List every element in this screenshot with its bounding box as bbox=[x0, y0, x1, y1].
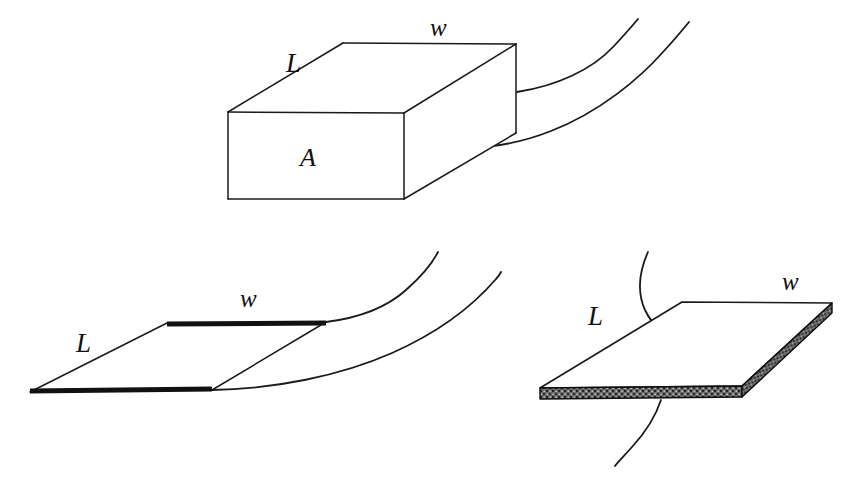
thick-plate-front-edge bbox=[540, 386, 742, 399]
thick-width-label: w bbox=[782, 268, 799, 295]
flat-plate-surface bbox=[30, 322, 326, 392]
flat-edge-front bbox=[30, 389, 212, 391]
panel-rectangular-block: L w A bbox=[228, 14, 689, 199]
thick-length-label: L bbox=[587, 301, 603, 331]
block-edge-top-back bbox=[343, 43, 516, 44]
block-front-face bbox=[228, 112, 404, 199]
streamline-upper bbox=[517, 19, 638, 92]
block-edge-top-front bbox=[228, 112, 404, 113]
flat-length-label: L bbox=[75, 328, 91, 358]
block-length-label: L bbox=[285, 48, 301, 78]
panel-thick-plate: L w bbox=[540, 252, 832, 466]
flat-streamline-upper bbox=[326, 252, 438, 322]
thick-streamline-lower bbox=[615, 400, 661, 466]
flat-width-label: w bbox=[240, 285, 257, 312]
panel-flat-plate: L w bbox=[30, 252, 501, 392]
figure-root: L w A L w bbox=[0, 0, 855, 488]
block-width-label: w bbox=[430, 14, 447, 41]
flat-edge-back bbox=[167, 323, 326, 324]
block-area-label: A bbox=[298, 143, 316, 172]
diagram-canvas: L w A L w bbox=[0, 0, 855, 488]
